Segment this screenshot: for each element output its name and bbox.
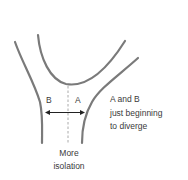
note-line-1: A and B xyxy=(110,93,162,107)
caption-line-2: isolation xyxy=(50,160,88,173)
note-line-3: to diverge xyxy=(110,120,162,134)
divergence-note: A and B just beginning to diverge xyxy=(110,93,162,134)
isolation-caption: More isolation xyxy=(50,147,88,173)
arrowhead-left-icon xyxy=(45,110,50,115)
label-population-a: A xyxy=(75,96,81,105)
label-population-b: B xyxy=(46,96,52,105)
note-line-2: just beginning xyxy=(110,107,162,121)
left-outer-branch xyxy=(15,42,42,143)
arrowhead-right-icon xyxy=(80,110,85,115)
divergence-diagram xyxy=(0,0,188,180)
inner-u-branch xyxy=(38,35,125,85)
caption-line-1: More xyxy=(50,147,88,160)
